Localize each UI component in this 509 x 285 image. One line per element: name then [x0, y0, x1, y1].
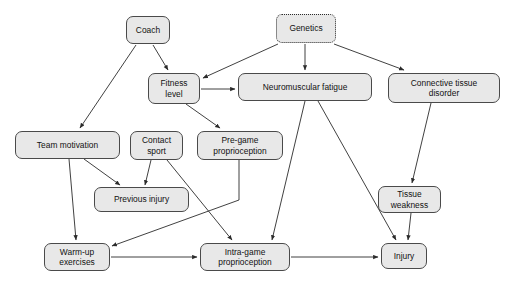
edge-teammot-to-previnj: [84, 159, 120, 185]
edge-genetics-to-connective: [334, 44, 404, 70]
node-intragame[interactable]: Intra-game proprioception: [200, 243, 290, 271]
node-label-injury: Injury: [394, 251, 415, 261]
node-neuro[interactable]: Neuromuscular fatigue: [238, 73, 372, 101]
edge-neuro-to-intragame: [272, 101, 305, 240]
node-label-connective: Connective tissue disorder: [411, 78, 477, 99]
node-tissueweak[interactable]: Tissue weakness: [378, 186, 441, 213]
node-label-contact: Contact sport: [142, 135, 171, 156]
node-label-warmup: Warm-up exercises: [59, 247, 95, 268]
node-label-fitness: Fitness level: [160, 78, 187, 99]
edge-tissueweak-to-injury: [408, 213, 411, 240]
node-connective[interactable]: Connective tissue disorder: [388, 73, 500, 103]
node-injury[interactable]: Injury: [381, 243, 427, 269]
node-contact[interactable]: Contact sport: [130, 131, 183, 160]
edge-connective-to-tissueweak: [412, 103, 431, 183]
node-label-tissueweak: Tissue weakness: [391, 189, 428, 210]
diagram-canvas: CoachGeneticsFitness levelNeuromuscular …: [0, 0, 509, 285]
node-genetics[interactable]: Genetics: [276, 14, 336, 43]
edge-neuro-to-injury: [318, 101, 396, 240]
node-fitness[interactable]: Fitness level: [148, 73, 200, 104]
node-label-intragame: Intra-game proprioception: [218, 247, 271, 268]
edge-contact-to-previnj: [145, 160, 151, 185]
node-coach[interactable]: Coach: [126, 16, 170, 44]
node-pregame[interactable]: Pre-game proprioception: [197, 131, 283, 160]
node-warmup[interactable]: Warm-up exercises: [44, 243, 110, 271]
node-label-coach: Coach: [136, 25, 160, 35]
edge-fitness-to-pregame: [186, 104, 220, 128]
node-label-pregame: Pre-game proprioception: [213, 135, 266, 156]
edge-coach-to-fitness: [153, 45, 168, 70]
node-label-genetics: Genetics: [289, 23, 322, 33]
edge-coach-to-teammot: [80, 45, 136, 128]
node-teammot[interactable]: Team motivation: [15, 131, 120, 159]
node-previnj[interactable]: Previous injury: [94, 187, 189, 212]
node-label-teammot: Team motivation: [37, 140, 98, 150]
edge-teammot-to-warmup: [69, 159, 76, 240]
node-label-previnj: Previous injury: [114, 194, 169, 204]
node-label-neuro: Neuromuscular fatigue: [263, 82, 348, 92]
